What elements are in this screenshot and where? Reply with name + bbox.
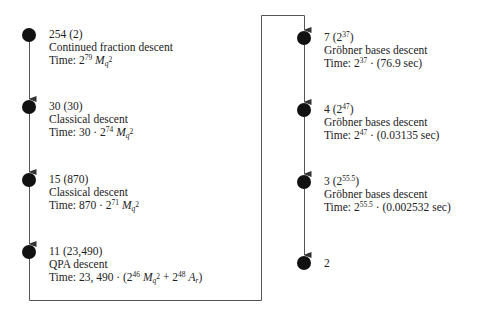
step-time: Time: 23, 490 · (246 Mq2 + 248 Ar): [49, 271, 202, 284]
label-2: 2: [324, 257, 330, 270]
node-2: [297, 256, 311, 270]
node-7: [297, 31, 311, 45]
label-30: 30 (30) Classical descent Time: 30 · 274…: [49, 100, 133, 139]
step-time: Time: 237 · (76.9 sec): [324, 57, 427, 70]
step-header: 3 (255.5): [324, 175, 451, 188]
node-30: [22, 100, 36, 114]
step-header: 15 (870): [49, 173, 139, 186]
step-time: Time: 279 Mq2: [49, 54, 173, 67]
step-header: 2: [324, 257, 330, 270]
node-3: [297, 175, 311, 189]
step-time: Time: 255.5 · (0.002532 sec): [324, 201, 451, 214]
step-method: Classical descent: [49, 113, 133, 126]
step-method: Gröbner bases descent: [324, 116, 439, 129]
node-254: [22, 28, 36, 42]
label-3: 3 (255.5) Gröbner bases descent Time: 25…: [324, 175, 451, 214]
step-header: 7 (237): [324, 31, 427, 44]
label-4: 4 (247) Gröbner bases descent Time: 247 …: [324, 103, 439, 142]
node-4: [297, 103, 311, 117]
label-7: 7 (237) Gröbner bases descent Time: 237 …: [324, 31, 427, 70]
step-method: Gröbner bases descent: [324, 44, 427, 57]
label-11: 11 (23,490) QPA descent Time: 23, 490 · …: [49, 245, 202, 284]
step-header: 11 (23,490): [49, 245, 202, 258]
step-time: Time: 870 · 271 Mq2: [49, 199, 139, 212]
step-header: 4 (247): [324, 103, 439, 116]
step-method: Continued fraction descent: [49, 41, 173, 54]
node-11: [22, 245, 36, 259]
step-method: Classical descent: [49, 186, 139, 199]
node-15: [22, 173, 36, 187]
step-time: Time: 30 · 274 Mq2: [49, 126, 133, 139]
step-method: Gröbner bases descent: [324, 188, 451, 201]
step-header: 254 (2): [49, 28, 173, 41]
label-15: 15 (870) Classical descent Time: 870 · 2…: [49, 173, 139, 212]
step-time: Time: 247 · (0.03135 sec): [324, 129, 439, 142]
step-header: 30 (30): [49, 100, 133, 113]
label-254: 254 (2) Continued fraction descent Time:…: [49, 28, 173, 67]
